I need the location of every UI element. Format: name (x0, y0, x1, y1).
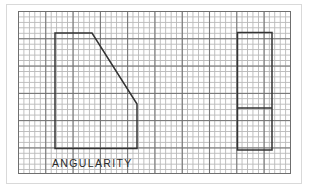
profile-view (55, 33, 137, 149)
angularity-drawing-figure: ANGULARITY (0, 0, 309, 189)
end-view (238, 33, 273, 151)
profile-view-outline (55, 33, 137, 149)
drawing-layer (0, 0, 309, 189)
figure-caption: ANGULARITY (52, 157, 133, 169)
end-view-outline (238, 33, 273, 151)
